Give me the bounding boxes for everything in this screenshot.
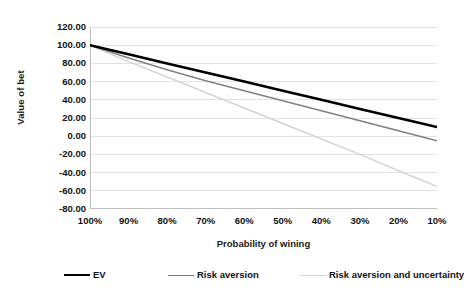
plot-svg xyxy=(90,27,437,209)
legend-line-swatch xyxy=(300,275,326,276)
legend-item[interactable]: EV xyxy=(64,268,106,282)
series-lines xyxy=(90,45,437,186)
x-axis-tick-labels: 100%90%80%70%60%50%40%30%20%10% xyxy=(90,215,437,231)
series-line xyxy=(90,45,437,127)
y-axis-tick-label: -40.00 xyxy=(42,168,86,178)
y-axis-tick-label: 0.00 xyxy=(42,131,86,141)
gridlines xyxy=(90,27,437,209)
y-axis-tick-label: 100.00 xyxy=(42,40,86,50)
plot-area xyxy=(90,27,437,209)
x-axis-title: Probability of wining xyxy=(90,238,437,249)
legend-item[interactable]: Risk aversion and uncertainty xyxy=(300,268,464,282)
legend-line-swatch xyxy=(64,274,90,276)
x-axis-tick-label: 100% xyxy=(68,215,112,226)
y-axis-tick-label: 120.00 xyxy=(42,22,86,32)
x-axis-tick-label: 60% xyxy=(222,215,266,226)
legend-item[interactable]: Risk aversion xyxy=(168,268,259,282)
y-axis-title: Value of bet xyxy=(15,58,26,138)
series-line xyxy=(90,45,437,141)
x-axis-tick-label: 20% xyxy=(376,215,420,226)
x-axis-tick-label: 70% xyxy=(184,215,228,226)
x-axis-tick-label: 90% xyxy=(107,215,151,226)
y-axis-tick-label: 40.00 xyxy=(42,95,86,105)
legend-item-label: Risk aversion xyxy=(197,269,259,281)
legend-item-label: Risk aversion and uncertainty xyxy=(329,269,464,281)
y-axis-tick-label: -80.00 xyxy=(42,204,86,214)
y-axis-tick-label: 80.00 xyxy=(42,58,86,68)
x-axis-tick-label: 10% xyxy=(415,215,459,226)
y-axis-tick-label: -60.00 xyxy=(42,186,86,196)
x-axis-tick-label: 40% xyxy=(299,215,343,226)
y-axis-tick-label: 60.00 xyxy=(42,77,86,87)
y-axis-tick-label: -20.00 xyxy=(42,149,86,159)
x-axis-tick-label: 30% xyxy=(338,215,382,226)
y-axis-tick-labels: 120.00100.0080.0060.0040.0020.000.00-20.… xyxy=(42,20,86,210)
legend-item-label: EV xyxy=(93,269,106,281)
x-axis-tick-label: 50% xyxy=(261,215,305,226)
y-axis-tick-label: 20.00 xyxy=(42,113,86,123)
legend-line-swatch xyxy=(168,275,194,276)
chart-legend: EVRisk aversionRisk aversion and uncerta… xyxy=(50,268,450,286)
x-axis-tick-label: 80% xyxy=(145,215,189,226)
